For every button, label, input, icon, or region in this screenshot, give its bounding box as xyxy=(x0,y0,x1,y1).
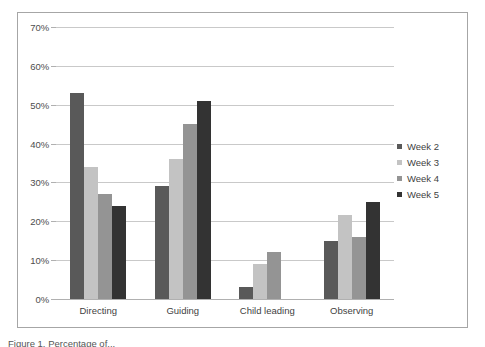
bar[interactable] xyxy=(267,252,281,299)
bar-group-bars xyxy=(141,27,226,299)
legend-item[interactable]: Week 5 xyxy=(397,187,457,202)
y-axis-tick-label: 40% xyxy=(30,138,49,149)
bar[interactable] xyxy=(253,264,267,299)
y-axis-tick-label: 10% xyxy=(30,255,49,266)
x-axis: DirectingGuidingChild leadingObserving xyxy=(56,301,394,321)
x-axis-category-label: Child leading xyxy=(225,301,310,321)
chart-frame: 70%60%50%40%30%20%10%0% DirectingGuiding… xyxy=(17,12,468,328)
axis-baseline xyxy=(56,299,394,300)
legend-label: Week 2 xyxy=(407,141,439,152)
bar[interactable] xyxy=(169,159,183,299)
legend-item[interactable]: Week 3 xyxy=(397,155,457,170)
y-axis-tick-label: 0% xyxy=(35,294,49,305)
legend-swatch-icon xyxy=(397,144,402,149)
legend-swatch-icon xyxy=(397,160,402,165)
figure-caption: Figure 1. Percentage of... xyxy=(8,337,478,347)
bar-group-bars xyxy=(225,27,310,299)
bar[interactable] xyxy=(324,241,338,299)
bar[interactable] xyxy=(366,202,380,299)
bar[interactable] xyxy=(112,206,126,299)
bar[interactable] xyxy=(197,101,211,299)
legend-swatch-icon xyxy=(397,192,402,197)
bar-group xyxy=(310,27,395,299)
y-axis-tick-label: 70% xyxy=(30,22,49,33)
bar-group-bars xyxy=(310,27,395,299)
bar[interactable] xyxy=(98,194,112,299)
bar[interactable] xyxy=(352,237,366,299)
bar[interactable] xyxy=(84,167,98,299)
legend-item[interactable]: Week 2 xyxy=(397,139,457,154)
legend-swatch-icon xyxy=(397,176,402,181)
legend-label: Week 5 xyxy=(407,189,439,200)
legend-item[interactable]: Week 4 xyxy=(397,171,457,186)
x-axis-category-label: Guiding xyxy=(141,301,226,321)
bar[interactable] xyxy=(239,287,253,299)
bar[interactable] xyxy=(155,186,169,299)
y-axis-tick-label: 30% xyxy=(30,177,49,188)
bar[interactable] xyxy=(338,215,352,299)
bar[interactable] xyxy=(70,93,84,299)
legend-label: Week 4 xyxy=(407,173,439,184)
bar-group-bars xyxy=(56,27,141,299)
bar-group xyxy=(56,27,141,299)
bar-groups xyxy=(56,27,394,299)
bar[interactable] xyxy=(183,124,197,299)
y-axis: 70%60%50%40%30%20%10%0% xyxy=(18,27,54,299)
legend-label: Week 3 xyxy=(407,157,439,168)
bar-group xyxy=(141,27,226,299)
x-axis-category-label: Observing xyxy=(310,301,395,321)
chart-legend: Week 2Week 3Week 4Week 5 xyxy=(397,139,457,203)
x-axis-category-label: Directing xyxy=(56,301,141,321)
y-axis-tickmark xyxy=(51,299,56,300)
y-axis-tick-label: 50% xyxy=(30,99,49,110)
y-axis-tick-label: 20% xyxy=(30,216,49,227)
plot-area xyxy=(56,27,394,299)
y-axis-tick-label: 60% xyxy=(30,60,49,71)
bar-group xyxy=(225,27,310,299)
